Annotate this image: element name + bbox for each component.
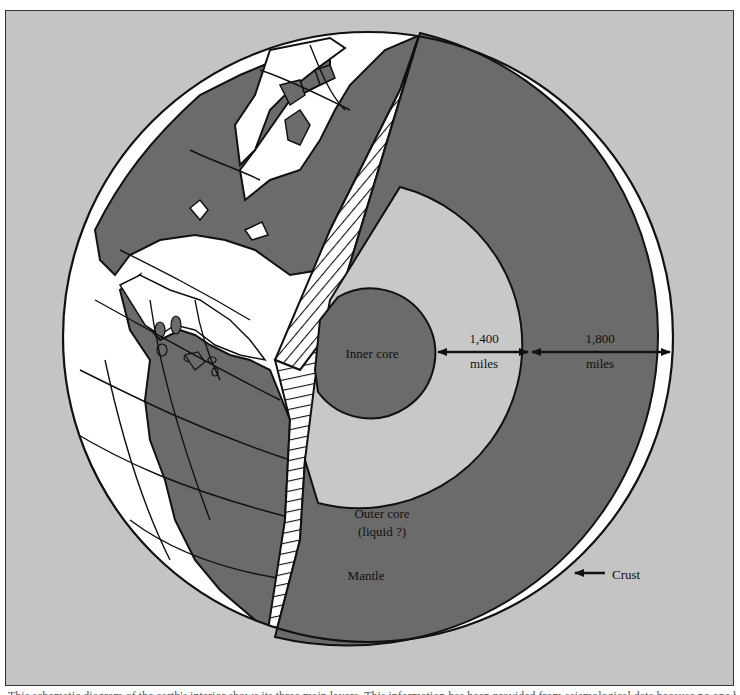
- figure-caption: This schematic diagram of the earth's in…: [8, 688, 736, 695]
- earth-cutaway-diagram: Inner core Outer core (liquid ?) Mantle …: [0, 0, 740, 695]
- outer-core-label: Outer core: [354, 506, 409, 521]
- outer-core-sublabel: (liquid ?): [358, 524, 406, 539]
- mantle-thickness-unit: miles: [586, 356, 614, 371]
- mantle-label: Mantle: [348, 568, 385, 583]
- mantle-thickness-value: 1,800: [585, 331, 614, 346]
- inner-core-label: Inner core: [345, 346, 398, 361]
- crust-label: Crust: [612, 567, 641, 582]
- outer-core-thickness-value: 1,400: [469, 331, 498, 346]
- outer-core-thickness-unit: miles: [470, 356, 498, 371]
